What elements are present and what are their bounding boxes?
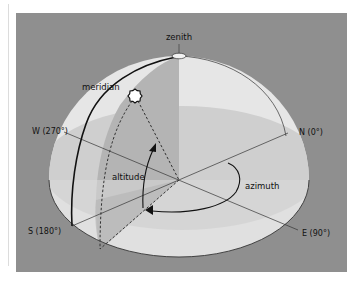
star-icon[interactable] bbox=[128, 89, 142, 103]
west-label: W (270°) bbox=[32, 127, 68, 136]
celestial-sphere-diagram: zenith meridian altitude azimuth W (270°… bbox=[0, 0, 362, 287]
south-label: S (180°) bbox=[28, 227, 61, 236]
meridian-label: meridian bbox=[82, 82, 120, 92]
azimuth-label: azimuth bbox=[245, 181, 279, 191]
altitude-label: altitude bbox=[112, 172, 145, 182]
north-label: N (0°) bbox=[299, 128, 323, 137]
zenith-label: zenith bbox=[166, 32, 192, 42]
east-label: E (90°) bbox=[302, 229, 330, 238]
zenith-marker-icon bbox=[172, 53, 186, 59]
